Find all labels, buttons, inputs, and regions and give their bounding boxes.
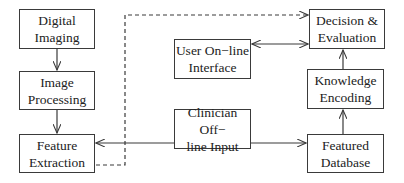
node-feature-extraction: Feature Extraction — [19, 134, 95, 173]
node-user-online-interface: User On−line Interface — [174, 39, 251, 79]
node-clinician-offline-input: Clinician Off− line Input — [174, 109, 251, 149]
node-label: Digital Imaging — [35, 12, 80, 46]
node-knowledge-encoding: Knowledge Encoding — [307, 69, 384, 109]
node-digital-imaging: Digital Imaging — [19, 9, 95, 49]
node-featured-database: Featured Database — [307, 134, 384, 173]
node-label: Knowledge Encoding — [314, 72, 376, 106]
node-image-processing: Image Processing — [19, 71, 95, 110]
node-label: Feature Extraction — [29, 137, 85, 171]
node-label: Decision & Evaluation — [316, 12, 378, 46]
node-label: Featured Database — [321, 137, 370, 171]
node-label: Clinician Off− line Input — [175, 104, 250, 155]
node-label: User On−line Interface — [176, 42, 249, 76]
node-label: Image Processing — [28, 74, 87, 108]
node-decision-evaluation: Decision & Evaluation — [309, 9, 385, 49]
